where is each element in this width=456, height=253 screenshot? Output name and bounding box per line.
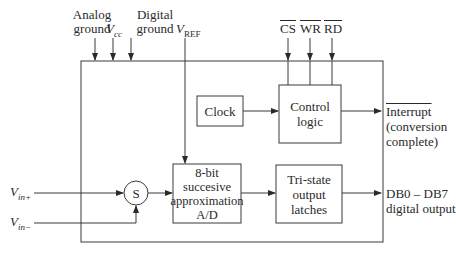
- digital-output-text: digital output: [386, 201, 456, 216]
- vin-plus-base: V: [10, 184, 18, 199]
- vcc-label: Vcc: [106, 22, 122, 41]
- vcc-sub: cc: [114, 29, 122, 39]
- vin-plus-label: Vin+: [10, 185, 31, 204]
- vref-base: V: [176, 21, 184, 36]
- latches-line3: latches: [291, 202, 327, 217]
- vin-minus-label: Vin−: [10, 215, 31, 234]
- digital-ground-line2: ground: [131, 22, 179, 36]
- vref-sub: REF: [184, 29, 201, 39]
- vref-label: VREF: [176, 22, 200, 41]
- rd-label: RD: [324, 22, 342, 36]
- adc-label: 8-bit succesive approximation A/D: [173, 164, 241, 223]
- interrupt-note-line1: (conversion: [386, 119, 447, 134]
- logic-text: logic: [297, 114, 323, 129]
- adc-line3: approximation: [171, 194, 244, 208]
- adc-line1: 8-bit: [195, 166, 219, 180]
- control-text: Control: [290, 99, 330, 114]
- data-output-label: DB0 – DB7 digital output: [386, 186, 456, 216]
- vcc-base: V: [106, 21, 114, 36]
- interrupt-label: Interrupt (conversion complete): [386, 104, 447, 149]
- latches-line2: output: [292, 187, 325, 202]
- clock-text: Clock: [204, 104, 235, 119]
- summer-label: S: [124, 181, 148, 205]
- vin-minus-sub: in−: [18, 222, 31, 232]
- vin-minus-base: V: [10, 214, 18, 229]
- summer-text: S: [132, 186, 139, 201]
- interrupt-text: Interrupt: [386, 104, 447, 119]
- digital-ground-label: Digital ground: [131, 8, 179, 36]
- latches-line1: Tri-state: [287, 172, 331, 187]
- cs-label: CS: [280, 22, 296, 36]
- latches-label: Tri-state output latches: [276, 165, 342, 223]
- interrupt-note-line2: complete): [386, 134, 447, 149]
- control-logic-label: Control logic: [279, 85, 341, 143]
- analog-ground-line1: Analog: [68, 8, 116, 22]
- wr-label: WR: [300, 22, 321, 36]
- adc-line4: A/D: [196, 208, 218, 222]
- digital-ground-line1: Digital: [131, 8, 179, 22]
- vin-minus-line: [34, 206, 136, 223]
- data-bus-text: DB0 – DB7: [386, 186, 456, 201]
- adc-line2: succesive: [183, 180, 231, 194]
- clock-label: Clock: [197, 96, 243, 126]
- vin-plus-sub: in+: [18, 192, 31, 202]
